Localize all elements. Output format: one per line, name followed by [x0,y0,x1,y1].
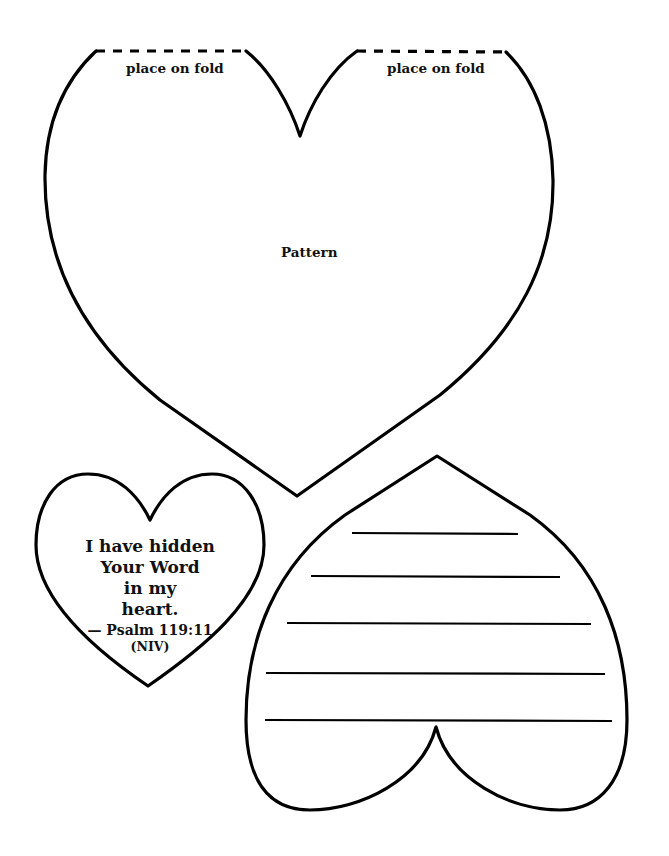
pattern-label: Pattern [281,244,338,260]
writing-line-5 [265,720,612,721]
pattern-heart [45,51,553,496]
verse-line-4: heart. [48,599,252,620]
fold-line-right [357,51,506,52]
verse-reference: — Psalm 119:11 [48,621,252,639]
fold-label-left: place on fold [126,60,224,76]
fold-label-right: place on fold [387,60,485,76]
writing-heart [246,456,627,810]
verse-line-3: in my [48,578,252,599]
pattern-heart-outline [45,51,553,496]
writing-line-3 [287,623,591,624]
writing-line-2 [311,576,560,577]
writing-heart-outline [246,456,627,810]
verse-text: I have hidden Your Word in my heart. — P… [48,536,252,655]
writing-line-1 [352,533,518,534]
verse-version: (NIV) [48,639,252,655]
writing-line-4 [266,673,605,674]
craft-template-artwork [0,0,669,856]
verse-line-1: I have hidden [48,536,252,557]
verse-line-2: Your Word [48,557,252,578]
